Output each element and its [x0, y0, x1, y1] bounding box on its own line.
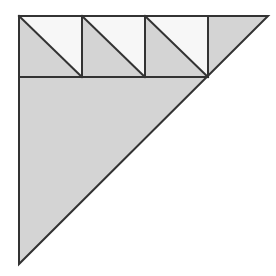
- geometric-figure-svg: Right triangle subdivided with a row of …: [0, 0, 276, 276]
- figure-canvas: Right triangle subdivided with a row of …: [0, 0, 276, 276]
